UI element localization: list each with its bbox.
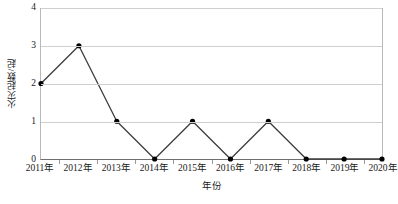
gridline <box>41 122 382 123</box>
data-point-marker <box>379 156 384 161</box>
x-axis-tick-label: 2012年 <box>64 164 93 174</box>
data-point-marker <box>342 156 347 161</box>
plot-area <box>40 8 383 160</box>
data-point-marker <box>304 156 309 161</box>
x-axis-tick-mark <box>326 160 327 164</box>
x-axis-tick-mark <box>135 160 136 164</box>
data-point-marker <box>228 156 233 161</box>
x-axis-tick-label: 2017年 <box>254 164 283 174</box>
x-axis-tick-mark <box>364 160 365 164</box>
gridline <box>41 46 382 47</box>
x-axis-tick-mark <box>97 160 98 164</box>
data-point-marker <box>152 156 157 161</box>
x-axis-tick-label: 2013年 <box>102 164 131 174</box>
x-axis-tick-label: 2018年 <box>292 164 321 174</box>
x-axis-title: 年份 <box>40 182 383 192</box>
x-axis-tick-mark <box>250 160 251 164</box>
x-axis-tick-labels: 2011年2012年2013年2014年2015年2016年2017年2018年… <box>40 164 383 180</box>
y-axis-tick-label: 2 <box>20 79 36 89</box>
x-axis-tick-label: 2011年 <box>26 164 55 174</box>
x-axis-tick-label: 2020年 <box>369 164 398 174</box>
x-axis-tick-label: 2014年 <box>140 164 169 174</box>
y-axis-tick-label: 4 <box>20 3 36 13</box>
x-axis-tick-mark <box>173 160 174 164</box>
series-polyline <box>41 46 382 159</box>
y-axis-tick-label: 1 <box>20 117 36 127</box>
x-axis-tick-mark <box>59 160 60 164</box>
y-axis-title-text: 火灾起数/起 <box>7 59 16 109</box>
gridline <box>41 84 382 85</box>
gridline <box>41 8 382 9</box>
x-axis-tick-label: 2016年 <box>216 164 245 174</box>
x-axis-tick-mark <box>288 160 289 164</box>
y-axis-tick-label: 3 <box>20 41 36 51</box>
x-axis-tick-mark <box>212 160 213 164</box>
y-axis-tick-labels: 01234 <box>20 8 36 160</box>
x-axis-tick-label: 2015年 <box>178 164 207 174</box>
x-axis-tick-label: 2019年 <box>330 164 359 174</box>
y-axis-title: 火灾起数/起 <box>2 0 20 168</box>
